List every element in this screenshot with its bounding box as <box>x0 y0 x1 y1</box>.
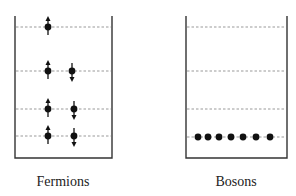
arrow-head-up-icon <box>46 125 51 130</box>
fermion-particle-icon <box>69 68 76 75</box>
bosons-label: Bosons <box>215 174 256 190</box>
fermion-particle-icon <box>71 133 78 140</box>
boson-particle-icon <box>267 134 274 141</box>
arrow-head-down-icon <box>72 142 77 147</box>
fermion-particle-icon <box>45 24 52 31</box>
boson-particle-icon <box>240 134 247 141</box>
boson-particle-icon <box>228 134 235 141</box>
fermion-particle-icon <box>45 133 52 140</box>
arrow-head-down-icon <box>72 115 77 120</box>
boson-particle-icon <box>195 134 202 141</box>
fermions-potential-well <box>15 16 112 158</box>
fermion-boson-diagram <box>0 0 296 196</box>
fermion-particle-icon <box>45 106 52 113</box>
arrow-head-down-icon <box>70 77 75 82</box>
boson-particle-icon <box>205 134 212 141</box>
arrow-head-up-icon <box>46 16 51 21</box>
fermion-particle-icon <box>45 68 52 75</box>
fermions-label: Fermions <box>37 174 90 190</box>
fermion-particle-icon <box>71 106 78 113</box>
boson-particle-icon <box>216 134 223 141</box>
boson-particle-icon <box>253 134 260 141</box>
arrow-head-up-icon <box>46 98 51 103</box>
arrow-head-up-icon <box>46 60 51 65</box>
